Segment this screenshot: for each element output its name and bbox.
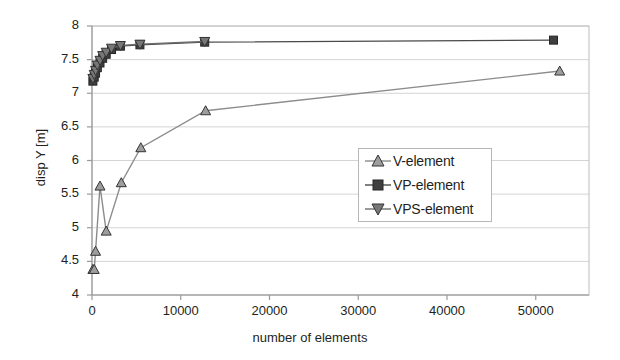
x-tick-label: 40000	[412, 303, 482, 318]
data-point-triangle-up	[555, 66, 565, 75]
y-tick-label: 5.5	[39, 185, 79, 200]
legend-item-vps-element[interactable]: VPS-element	[359, 197, 491, 221]
y-tick-label: 6.5	[39, 118, 79, 133]
legend-item-v-element[interactable]: V-element	[359, 149, 491, 173]
data-point-triangle-up	[116, 178, 126, 187]
y-tick-label: 7	[39, 84, 79, 99]
y-tick-label: 5	[39, 219, 79, 234]
square-icon	[363, 175, 393, 195]
y-tick-label: 4	[39, 286, 79, 301]
data-point-triangle-up	[136, 143, 146, 152]
grid-lines	[92, 26, 589, 295]
y-tick-label: 6	[39, 152, 79, 167]
y-tick-label: 4.5	[39, 252, 79, 267]
data-point-square	[550, 36, 558, 44]
triangle-down-icon	[363, 199, 393, 219]
legend-label: VPS-element	[393, 201, 473, 217]
triangle-up-icon	[363, 151, 393, 171]
chart-legend: V-elementVP-elementVPS-element	[358, 148, 492, 222]
y-tick-label: 7.5	[39, 51, 79, 66]
x-tick-label: 10000	[146, 303, 216, 318]
y-tick-label: 8	[39, 17, 79, 32]
data-series	[88, 36, 565, 273]
x-tick-label: 50000	[501, 303, 571, 318]
x-tick-label: 0	[57, 303, 127, 318]
legend-label: V-element	[393, 153, 454, 169]
chart-container: disp Y [m] number of elements 44.555.566…	[0, 0, 620, 360]
data-point-square	[373, 180, 383, 190]
data-point-triangle-up	[95, 181, 105, 190]
x-tick-label: 20000	[235, 303, 305, 318]
legend-label: VP-element	[393, 177, 464, 193]
x-tick-label: 30000	[323, 303, 393, 318]
series-v-element	[88, 66, 565, 273]
legend-item-vp-element[interactable]: VP-element	[359, 173, 491, 197]
series-line	[93, 40, 554, 81]
